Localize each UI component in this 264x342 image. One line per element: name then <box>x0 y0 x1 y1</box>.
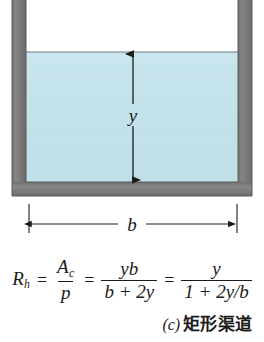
formula-term-2-numerator: yb <box>117 259 141 280</box>
depth-label-y: y <box>127 105 138 126</box>
formula-term-2: yb b + 2y <box>101 259 157 302</box>
formula-equals-3: = <box>163 270 175 291</box>
hydraulic-radius-formula: Rh = Ac p = yb b + 2y = y 1 + 2y/b <box>0 252 264 308</box>
channel-cross-section-drawing: y b <box>0 0 264 250</box>
formula-equals-1: = <box>36 270 48 291</box>
formula-term-1: Ac p <box>54 257 77 302</box>
formula-term-3-numerator: y <box>209 259 223 280</box>
formula-term-3: y 1 + 2y/b <box>181 259 252 302</box>
formula-term-1-numerator: Ac <box>54 257 77 281</box>
caption-index: (c) <box>162 316 180 333</box>
formula-equals-2: = <box>83 270 95 291</box>
left-wall <box>12 0 26 196</box>
width-dimension-b: b <box>29 204 237 235</box>
width-label-b: b <box>127 214 137 235</box>
right-wall <box>238 0 252 196</box>
figure-rectangular-channel: y b Rh = Ac p = yb b + 2y = y 1 + 2y/ <box>0 0 264 342</box>
figure-caption: (c)矩形渠道 <box>0 310 252 335</box>
formula-lhs: Rh <box>12 268 30 292</box>
bottom-wall <box>12 182 252 196</box>
formula-term-1-denominator: p <box>58 281 74 303</box>
formula-term-2-denominator: b + 2y <box>101 280 157 302</box>
caption-text: 矩形渠道 <box>183 314 252 334</box>
formula-term-3-denominator: 1 + 2y/b <box>181 280 252 302</box>
